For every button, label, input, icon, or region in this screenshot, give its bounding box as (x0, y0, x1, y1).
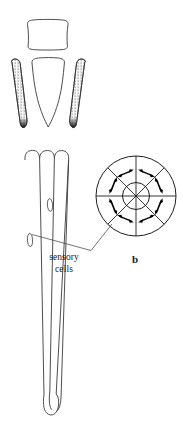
cross-section-arrow-6 (117, 215, 134, 223)
figure-root: sensory cells b (0, 0, 183, 439)
cross-section-arrow-1 (117, 169, 134, 177)
leader-to-cross-section (91, 224, 112, 251)
cross-section-arrow-4 (155, 198, 163, 215)
cross-section-arrow-7 (109, 198, 117, 215)
elongated-tapering-stylet (25, 150, 69, 415)
cross-section-arrow-8 (109, 177, 117, 194)
sensory-cells-leader-lines (32, 224, 112, 251)
anatomical-figure-canvas (0, 0, 183, 439)
panel-b-label: b (126, 253, 144, 265)
sensory-cells-label-line2: cells (0, 264, 128, 276)
stippled-lateral-process-right (70, 59, 86, 128)
sensory-cells-label: sensory cells (0, 252, 128, 275)
rounded-cap-segment (27, 19, 68, 50)
sensory-cell-oval-left (27, 233, 33, 246)
cross-section-arrow-2 (138, 169, 155, 177)
sensory-cells-label-line1: sensory (0, 252, 128, 264)
cross-section-arrow-3 (155, 177, 163, 194)
sensory-cell-oval-right (47, 198, 53, 211)
cross-section-arrow-5 (138, 215, 155, 223)
cross-section-rosette (96, 156, 176, 236)
stippled-lateral-process-left (12, 59, 28, 128)
pointed-sheath-outline (32, 58, 64, 127)
